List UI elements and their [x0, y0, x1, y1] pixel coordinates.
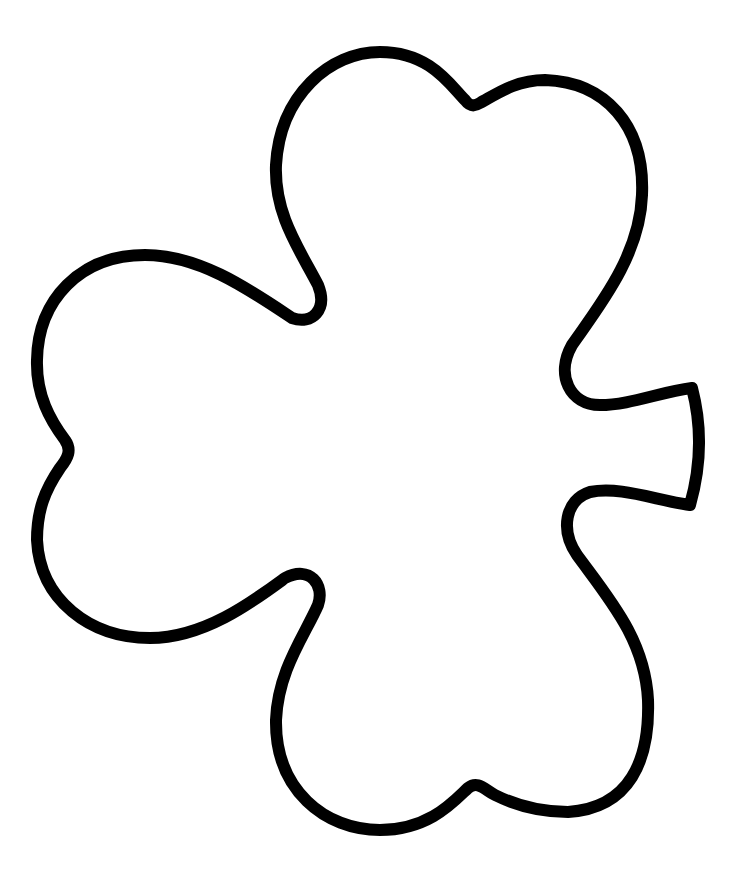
shamrock-canvas: [0, 0, 748, 893]
shamrock-path: [37, 52, 699, 830]
shamrock-outline-icon: [0, 0, 748, 893]
